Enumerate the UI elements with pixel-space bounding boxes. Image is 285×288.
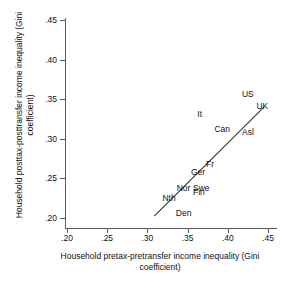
data-point-it: It — [197, 110, 202, 119]
data-point-fin: Fin — [193, 187, 205, 196]
data-point-den: Den — [176, 209, 192, 218]
data-point-asl: Asl — [242, 128, 254, 137]
data-point-can: Can — [214, 125, 230, 134]
data-point-uk: UK — [256, 101, 268, 110]
data-point-nor: Nor — [177, 183, 191, 192]
data-point-nth: Nth — [162, 194, 175, 203]
data-point-ger: Ger — [191, 168, 205, 177]
data-point-fr: Fr — [206, 160, 214, 169]
regression-line — [0, 0, 285, 288]
scatter-chart: Household posttax-posttransfer income in… — [0, 0, 285, 288]
data-point-us: US — [242, 89, 254, 98]
